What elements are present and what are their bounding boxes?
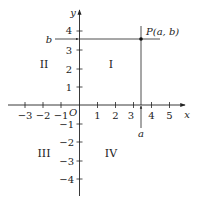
x-axis-label: x (184, 109, 190, 120)
y-axis-label: y (69, 7, 76, 18)
y-tick-label: 3 (66, 45, 72, 56)
y-tick-label: −4 (59, 174, 74, 185)
y-tick-label: −3 (59, 156, 74, 167)
point-p-label: P(a, b) (145, 26, 179, 37)
x-tick-label: 1 (94, 110, 100, 121)
x-tick-label: 4 (148, 110, 154, 121)
b-label: b (46, 34, 52, 45)
x-tick-label: −2 (36, 110, 51, 121)
point-p (139, 37, 143, 41)
y-tick-label: 1 (66, 82, 72, 93)
x-tick-label: 3 (128, 110, 134, 121)
x-tick-label: 2 (112, 110, 118, 121)
quadrant-1-label: I (109, 58, 113, 71)
quadrant-2-label: II (40, 58, 49, 71)
y-tick-label: −2 (59, 137, 74, 148)
x-tick-label: −3 (18, 110, 33, 121)
origin-label: O (69, 107, 77, 118)
quadrant-4-label: IV (105, 147, 118, 160)
x-tick-label: 5 (166, 110, 172, 121)
a-label: a (138, 128, 144, 139)
y-tick-label: 4 (66, 25, 72, 36)
y-tick-label: 2 (66, 64, 72, 75)
y-tick-label: −1 (59, 119, 74, 130)
quadrant-3-label: III (37, 147, 50, 160)
coordinate-plane: −3 −2 −1 1 2 3 4 5 1 2 3 4 −1 −2 −3 −4 x… (0, 0, 200, 200)
